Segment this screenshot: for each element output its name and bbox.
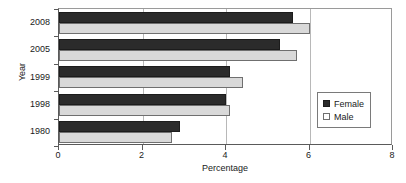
y-axis-tick-label: 1998 bbox=[18, 90, 54, 117]
y-axis-tick-label: 1980 bbox=[18, 118, 54, 145]
bar-female-1998[interactable] bbox=[59, 94, 226, 105]
bar-group bbox=[59, 36, 391, 63]
bar-female-1999[interactable] bbox=[59, 66, 230, 77]
bar-male-2005[interactable] bbox=[59, 50, 297, 61]
bar-male-1998[interactable] bbox=[59, 105, 230, 116]
legend-item-male[interactable]: Male bbox=[323, 110, 364, 123]
bar-group bbox=[59, 9, 391, 36]
bar-group bbox=[59, 64, 391, 91]
legend-label-female: Female bbox=[334, 99, 364, 109]
x-axis-tick-label: 0 bbox=[43, 150, 73, 160]
bar-male-1999[interactable] bbox=[59, 77, 243, 88]
legend-swatch-male-icon bbox=[323, 113, 330, 120]
x-axis-title: Percentage bbox=[58, 163, 392, 173]
bar-female-2008[interactable] bbox=[59, 12, 293, 23]
x-axis-tick-label: 6 bbox=[294, 150, 324, 160]
bar-chart: Year 20082005199919981980 02468 Percenta… bbox=[0, 0, 406, 183]
bar-female-1980[interactable] bbox=[59, 121, 180, 132]
y-axis-tick-label: 2005 bbox=[18, 35, 54, 62]
x-axis-tick-label: 4 bbox=[210, 150, 240, 160]
y-axis-tick-labels: 20082005199919981980 bbox=[18, 8, 54, 145]
legend-swatch-female-icon bbox=[323, 100, 330, 107]
bar-male-2008[interactable] bbox=[59, 23, 310, 34]
chart-legend: Female Male bbox=[317, 92, 371, 128]
x-axis-tick-label: 8 bbox=[377, 150, 406, 160]
bar-female-2005[interactable] bbox=[59, 39, 280, 50]
bar-male-1980[interactable] bbox=[59, 132, 172, 143]
y-axis-tick-label: 1999 bbox=[18, 63, 54, 90]
legend-item-female[interactable]: Female bbox=[323, 97, 364, 110]
y-axis-tick-label: 2008 bbox=[18, 8, 54, 35]
x-axis-tick-label: 2 bbox=[127, 150, 157, 160]
legend-label-male: Male bbox=[334, 112, 354, 122]
